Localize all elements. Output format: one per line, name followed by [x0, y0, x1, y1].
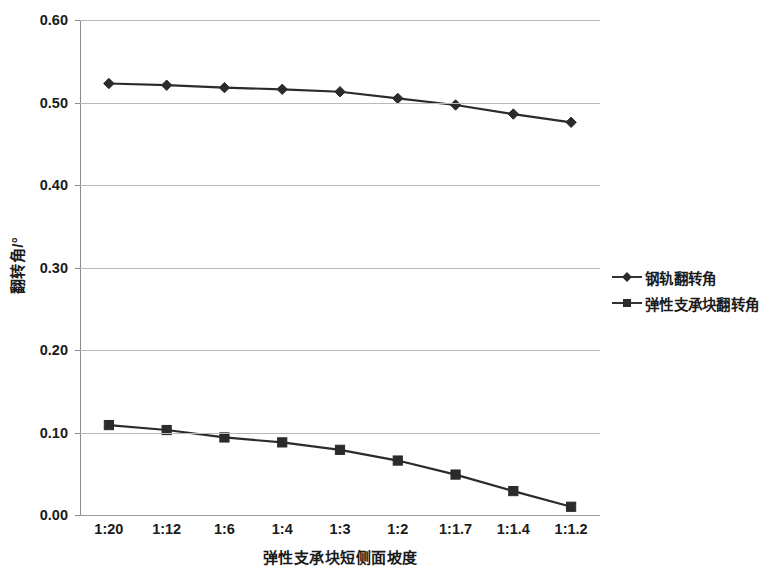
data-point-marker [450, 100, 460, 110]
y-axis-tick-label: 0.10 [40, 425, 68, 441]
data-point-marker [220, 433, 229, 442]
data-point-marker [335, 445, 344, 454]
y-axis-tick-mark [75, 103, 80, 104]
y-axis-tick-label: 0.20 [40, 342, 68, 358]
y-axis-title-label: 翻转角/° [7, 236, 28, 294]
x-axis-tick-label: 1:12 [152, 521, 181, 537]
x-axis-tick-label: 1:3 [330, 521, 351, 537]
x-axis-title: 弹性支承块短侧面坡度 [80, 546, 600, 567]
data-point-marker [278, 438, 287, 447]
plot-area [80, 20, 600, 515]
chart-container: 翻转角/° 0.000.100.200.300.400.500.60 1:201… [0, 0, 770, 570]
gridline [80, 185, 600, 186]
legend-item-label: 钢轨翻转角 [645, 267, 717, 288]
legend-diamond-marker-icon [612, 270, 642, 284]
legend-marker [623, 299, 631, 307]
gridline [80, 268, 600, 269]
gridline [80, 515, 600, 516]
x-axis-tick-labels: 1:201:121:61:41:31:21:1.71:1.41:1.2 [80, 521, 600, 545]
data-point-marker [161, 80, 171, 90]
data-point-marker [393, 456, 402, 465]
data-point-marker [335, 87, 345, 97]
y-axis-tick-label: 0.50 [40, 95, 68, 111]
x-axis-tick-label: 1:4 [272, 521, 293, 537]
x-axis-tick-label: 1:20 [94, 521, 123, 537]
legend-marker [622, 272, 632, 282]
data-point-marker [567, 502, 576, 511]
gridline [80, 350, 600, 351]
y-axis-tick-mark [75, 185, 80, 186]
x-axis-tick-label: 1:2 [387, 521, 408, 537]
x-axis-tick-label: 1:1.4 [497, 521, 530, 537]
y-axis-tick-label: 0.60 [40, 12, 68, 28]
data-point-marker [104, 420, 113, 429]
data-point-marker [451, 470, 460, 479]
series-line [109, 425, 571, 507]
y-axis-tick-mark [75, 515, 80, 516]
legend-item[interactable]: 弹性支承块翻转角 [612, 290, 768, 316]
legend-item-label: 弹性支承块翻转角 [645, 293, 759, 314]
data-point-marker [509, 486, 518, 495]
y-axis-tick-mark [75, 268, 80, 269]
data-series [104, 420, 575, 511]
y-axis-tick-label: 0.00 [40, 507, 68, 523]
x-axis-tick-label: 1:6 [214, 521, 235, 537]
legend-item[interactable]: 钢轨翻转角 [612, 264, 768, 290]
y-axis-tick-mark [75, 20, 80, 21]
data-point-marker [508, 109, 518, 119]
data-point-marker [219, 82, 229, 92]
data-point-marker [277, 84, 287, 94]
data-point-marker [566, 117, 576, 127]
gridline [80, 20, 600, 21]
data-point-marker [104, 78, 114, 88]
gridline [80, 433, 600, 434]
x-axis-tick-label: 1:1.2 [555, 521, 588, 537]
y-axis-tick-mark [75, 350, 80, 351]
y-axis-tick-label: 0.40 [40, 177, 68, 193]
chart-legend: 钢轨翻转角弹性支承块翻转角 [612, 264, 768, 316]
y-axis-tick-labels: 0.000.100.200.300.400.500.60 [26, 0, 74, 530]
x-axis-tick-label: 1:1.7 [439, 521, 472, 537]
y-axis-tick-label: 0.30 [40, 260, 68, 276]
gridline [80, 103, 600, 104]
y-axis-tick-mark [75, 433, 80, 434]
legend-square-marker-icon [612, 296, 642, 310]
